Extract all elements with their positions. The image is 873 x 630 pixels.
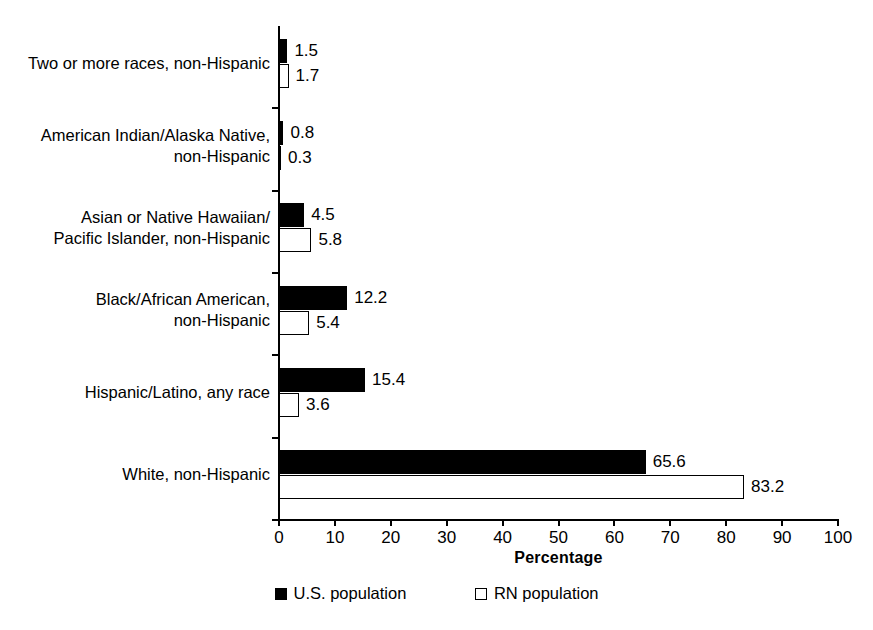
y-axis-tick [272,190,279,192]
x-axis-title: Percentage [279,549,838,567]
legend-entry-us-population: U.S. population [275,584,407,603]
x-axis-tick [502,519,504,526]
x-axis-tick-label: 50 [529,528,589,548]
x-axis-tick [781,519,783,526]
bar-value-label: 12.2 [354,289,387,307]
x-axis-tick-label: 10 [305,528,365,548]
category-label: White, non-Hispanic [11,464,279,485]
x-axis-tick-label: 30 [417,528,477,548]
legend-label-rn-population: RN population [494,584,599,603]
x-axis-tick-label: 0 [249,528,309,548]
x-axis-tick-label: 60 [584,528,644,548]
y-axis-tick [272,272,279,274]
x-axis-tick [613,519,615,526]
bar-value-label: 5.4 [316,314,340,332]
bar-us-population [279,450,646,474]
outline-square-icon [475,588,487,600]
bar-rn-population [279,311,309,335]
bar-us-population [279,368,365,392]
y-axis-tick [272,107,279,109]
x-axis-tick-label: 40 [473,528,533,548]
bar-value-label: 5.8 [318,231,342,249]
y-axis-tick [272,354,279,356]
filled-square-icon [275,588,287,600]
x-axis-tick [278,519,280,526]
bar-value-label: 1.5 [294,42,318,60]
category-label: Two or more races, non-Hispanic [11,53,279,74]
bar-us-population [279,286,347,310]
plot-area: 1.51.70.80.34.55.812.25.415.43.665.683.2 [279,26,838,520]
bar-rn-population [279,146,281,170]
bar-value-label: 15.4 [372,371,405,389]
x-axis-tick-label: 90 [752,528,812,548]
category-label: American Indian/Alaska Native, non-Hispa… [11,125,279,167]
x-axis-tick [837,519,839,526]
bar-us-population [279,203,304,227]
bar-value-label: 4.5 [311,206,335,224]
bar-us-population [279,39,287,63]
bar-rn-population [279,393,299,417]
category-label: Hispanic/Latino, any race [11,382,279,403]
x-axis-tick-label: 80 [696,528,756,548]
bar-value-label: 65.6 [653,453,686,471]
category-axis-labels: Two or more races, non-HispanicAmerican … [0,26,279,520]
bar-value-label: 1.7 [296,67,320,85]
x-axis-tick-label: 20 [361,528,421,548]
bar-value-label: 3.6 [306,396,330,414]
legend-label-us-population: U.S. population [294,584,407,603]
bar-value-label: 0.3 [288,149,312,167]
x-axis-tick-label: 100 [808,528,868,548]
x-axis-tick-label: 70 [640,528,700,548]
bar-value-label: 0.8 [290,124,314,142]
x-axis-tick [446,519,448,526]
y-axis-tick [272,437,279,439]
chart-legend: U.S. population RN population [0,583,873,603]
bar-rn-population [279,228,311,252]
bar-rn-population [279,64,289,88]
x-axis-tick [669,519,671,526]
bar-us-population [279,121,283,145]
category-label: Black/African American, non-Hispanic [11,289,279,331]
x-axis-tick [725,519,727,526]
x-axis-tick [558,519,560,526]
bar-rn-population [279,475,744,499]
x-axis-tick [390,519,392,526]
x-axis-tick [334,519,336,526]
bar-value-label: 83.2 [751,478,784,496]
bar-chart: Two or more races, non-HispanicAmerican … [0,0,873,630]
legend-entry-rn-population: RN population [475,584,599,603]
category-label: Asian or Native Hawaiian/ Pacific Island… [11,207,279,249]
